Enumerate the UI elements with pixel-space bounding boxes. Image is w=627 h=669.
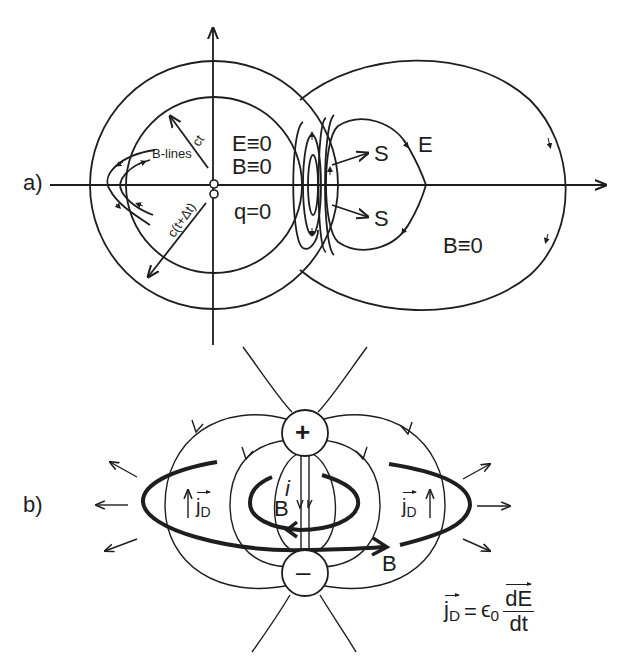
b-zero-outer-label: B≡0 xyxy=(443,235,483,257)
outer-b-label: B xyxy=(382,553,397,575)
displacement-current-formula: jD = ϵ0 dE dt xyxy=(444,588,534,635)
inner-b-loop xyxy=(250,475,358,530)
source-circle-bottom xyxy=(210,190,218,198)
e-field-label: E xyxy=(418,134,433,156)
outer-b-loop-left xyxy=(143,462,385,550)
e-zero-label: E≡0 xyxy=(232,133,272,155)
source-circle-top xyxy=(210,180,218,188)
diagram-canvas xyxy=(0,0,627,669)
formula-equals: = xyxy=(464,601,477,623)
field-loop-right-inner xyxy=(313,454,335,552)
formula-epsilon: ϵ0 xyxy=(481,599,499,623)
poynting-arrow-bottom xyxy=(332,205,368,217)
poynting-arrow-top xyxy=(332,153,368,165)
panel-a xyxy=(50,28,606,345)
plus-sign: + xyxy=(295,419,310,445)
poynting-s-top-label: S xyxy=(374,143,389,165)
panel-a-label: a) xyxy=(23,172,43,194)
b-zero-label: B≡0 xyxy=(232,156,272,178)
jd-right-label: jD xyxy=(402,496,417,519)
panel-b-label: b) xyxy=(23,494,43,516)
formula-lhs: jD xyxy=(444,599,460,623)
b-lines-label: B-lines xyxy=(152,147,192,160)
field-loop-left-outer xyxy=(165,415,290,589)
q-zero-label: q=0 xyxy=(234,201,271,223)
inner-b-label: B xyxy=(274,498,289,520)
jd-left-label: jD xyxy=(196,496,211,519)
minus-sign: – xyxy=(296,559,310,585)
b-field-loops xyxy=(143,462,470,555)
formula-fraction: dE dt xyxy=(503,588,534,635)
poynting-s-bottom-label: S xyxy=(374,208,389,230)
